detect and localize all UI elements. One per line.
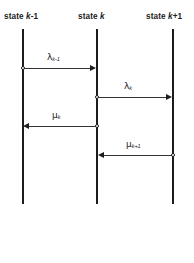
state-transition-diagram: state k-1 state k state k+1 λk-1 λk μk μ… — [0, 0, 194, 263]
transition-arrow-mu-k-plus-1-shaft — [104, 155, 173, 156]
transition-source-node-lambda-k — [95, 95, 100, 100]
state-label-k-prefix: state — [78, 12, 100, 21]
state-line-k — [96, 29, 98, 204]
rate-label-lambda-k-minus-1-subscript: k-1 — [52, 56, 59, 62]
state-label-k-plus-1: state k+1 — [146, 12, 182, 22]
transition-arrowhead-mu-k — [23, 123, 29, 129]
rate-label-mu-k: μk — [52, 111, 60, 122]
state-label-k-var: k — [100, 12, 105, 21]
transition-arrowhead-lambda-k-minus-1 — [90, 65, 96, 71]
rate-label-lambda-k: λk — [124, 82, 132, 93]
transition-source-node-mu-k — [95, 124, 100, 129]
transition-source-node-mu-k-plus-1 — [171, 153, 176, 158]
state-label-k-plus-1-prefix: state — [146, 12, 168, 21]
transition-arrow-lambda-k-shaft — [98, 97, 167, 98]
rate-label-lambda-k-minus-1: λk-1 — [47, 53, 60, 64]
state-label-k-minus-1-prefix: state — [4, 12, 26, 21]
rate-label-mu-k-plus-1: μk+1 — [126, 140, 141, 151]
transition-arrowhead-mu-k-plus-1 — [98, 152, 104, 158]
state-label-k-minus-1: state k-1 — [4, 12, 38, 22]
rate-label-mu-k-plus-1-subscript: k+1 — [132, 143, 141, 149]
state-label-k-minus-1-suffix: -1 — [31, 12, 38, 21]
transition-arrow-mu-k-shaft — [29, 126, 97, 127]
state-line-k-plus-1 — [172, 29, 174, 204]
state-label-k-plus-1-suffix: +1 — [173, 12, 183, 21]
state-line-k-minus-1 — [22, 29, 24, 204]
state-label-k: state k — [78, 12, 105, 22]
rate-label-mu-k-subscript: k — [58, 114, 61, 120]
rate-label-lambda-k-subscript: k — [129, 85, 132, 91]
transition-arrow-lambda-k-minus-1-shaft — [23, 68, 91, 69]
transition-source-node-lambda-k-minus-1 — [21, 66, 26, 71]
transition-arrowhead-lambda-k — [166, 94, 172, 100]
